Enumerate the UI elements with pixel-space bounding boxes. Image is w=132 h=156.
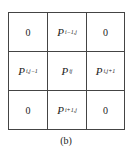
cell-symbol: P [61, 65, 68, 77]
cell-value: 0 [103, 105, 108, 116]
stencil-grid: 0 Pi−1,j 0 Pi,j−1 Pij Pi,j+1 0 Pi+1,j 0 [8, 12, 125, 130]
cell-top-left: 0 [9, 13, 48, 52]
cell-center: Pij [48, 52, 87, 91]
figure-caption: (b) [0, 135, 132, 146]
cell-top-right: 0 [87, 13, 124, 52]
cell-value: 0 [26, 105, 31, 116]
cell-top-center: Pi−1,j [48, 13, 87, 52]
cell-middle-right: Pi,j+1 [87, 52, 124, 91]
cell-bottom-left: 0 [9, 91, 48, 129]
cell-subscript: i+1,j [65, 107, 77, 113]
cell-symbol: P [57, 26, 64, 38]
cell-symbol: P [96, 65, 103, 77]
cell-subscript: i,j+1 [103, 68, 115, 74]
cell-subscript: i,j−1 [26, 68, 38, 74]
cell-value: 0 [103, 27, 108, 38]
cell-subscript: i−1,j [65, 29, 77, 35]
cell-value: 0 [26, 27, 31, 38]
cell-symbol: P [57, 104, 64, 116]
cell-middle-left: Pi,j−1 [9, 52, 48, 91]
cell-bottom-center: Pi+1,j [48, 91, 87, 129]
cell-bottom-right: 0 [87, 91, 124, 129]
cell-symbol: P [18, 65, 25, 77]
cell-subscript: ij [69, 68, 72, 74]
